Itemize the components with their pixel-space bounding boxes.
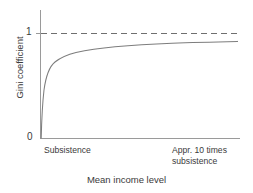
y-tick-label-0: 0 [27,132,33,142]
x-annotation-subsistence: Subsistence [44,145,91,156]
x-annotation-right-line2: subsistence [172,156,227,167]
y-axis-title: Gini coefficient [14,20,25,116]
x-axis-title: Mean income level [0,174,253,185]
x-annotation-ten-times-subsistence: Appr. 10 times subsistence [172,145,227,166]
x-annotation-right-line1: Appr. 10 times [172,145,227,156]
gini-curve [41,41,237,138]
gini-coefficient-chart: 1 0 Gini coefficient Mean income level S… [0,0,253,193]
y-tick-label-1: 1 [26,27,32,37]
